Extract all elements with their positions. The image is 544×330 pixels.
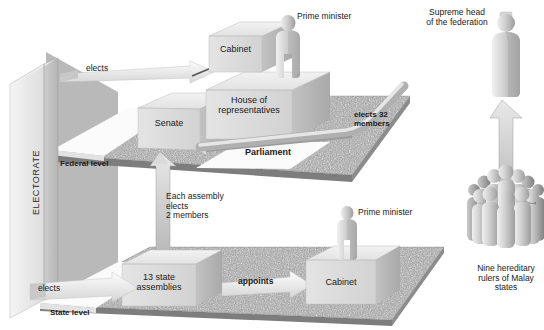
electorate-label: ELECTORATE — [31, 150, 41, 215]
elects-house-arrow — [60, 61, 216, 83]
state-prime-minister-label: Prime minister — [358, 208, 412, 218]
nine-hereditary-rulers-figures — [467, 165, 544, 249]
appoints-label: appoints — [238, 277, 273, 287]
elects-house-label: elects — [86, 64, 108, 74]
diagram-canvas: ELECTORATE Federal level State level ele… — [0, 0, 544, 330]
senate-label: Senate — [138, 118, 200, 128]
federal-cabinet-label: Cabinet — [209, 44, 262, 54]
elects-32-members-label: elects 32 members — [354, 111, 390, 129]
federal-prime-minister-label: Prime minister — [297, 12, 351, 22]
house-of-representatives-label: House of representatives — [206, 95, 292, 115]
federal-level-label: Federal level — [60, 160, 108, 169]
parliament-label: Parliament — [245, 147, 291, 157]
state-assemblies-label: 13 state assemblies — [122, 272, 196, 292]
state-cabinet-label: Cabinet — [306, 277, 376, 287]
elects-assemblies-label: elects — [38, 284, 60, 294]
each-assembly-elects-label: Each assembly elects 2 members — [166, 192, 224, 221]
supreme-head-label: Supreme head of the federation — [409, 8, 505, 27]
nine-hereditary-rulers-label: Nine hereditary rulers of Malay states — [463, 264, 544, 293]
state-level-label: State level — [50, 309, 90, 318]
